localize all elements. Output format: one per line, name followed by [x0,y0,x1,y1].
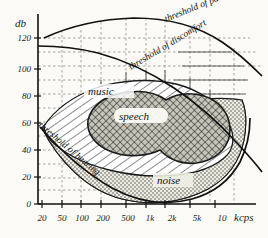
x-tick-label-200: 200 [96,213,110,223]
x-tick-label-10k: 10 [218,213,228,223]
y-axis-title: db [15,17,27,29]
x-tick-label-100: 100 [75,213,89,223]
label-noise-group: noise [153,173,193,187]
y-tick-label-120: 120 [18,33,32,43]
region-label-speech: speech [119,110,149,122]
x-tick-label-1k: 1k [146,213,156,223]
label-music-group: music [84,84,134,98]
x-tick-label-20: 20 [38,213,48,223]
x-tick-label-500: 500 [121,213,135,223]
x-tick-label-50: 50 [58,213,68,223]
x-tick-label-5k: 5k [193,213,203,223]
x-tick-label-2k: 2k [168,213,178,223]
y-tick-label-40: 40 [22,145,32,155]
y-tick-label-20: 20 [22,172,32,182]
y-tick-label-60: 60 [22,118,32,128]
y-tick-label-80: 80 [22,91,32,101]
label-speech-group: speech [114,108,168,123]
hearing-field-chart: 0 20 40 60 80 100 120 db 20 50 100 200 5… [0,0,268,238]
region-label-noise: noise [157,174,180,186]
y-tick-label-0: 0 [27,199,32,209]
region-label-music: music [88,85,114,97]
chart-svg: 0 20 40 60 80 100 120 db 20 50 100 200 5… [0,0,268,238]
y-tick-label-100: 100 [18,64,32,74]
x-axis-unit-label: kcps [234,211,254,223]
